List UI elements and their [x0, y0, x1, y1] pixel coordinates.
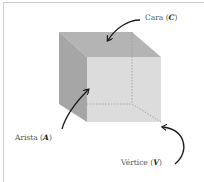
face-label-text: Cara — [145, 13, 163, 22]
vertex-label-symbol: V — [153, 158, 159, 167]
edge-label-symbol: A — [43, 133, 49, 142]
edge-label-text: Arista — [15, 133, 38, 142]
vertex-label-text: Vértice — [121, 158, 148, 167]
cube-diagram — [0, 0, 204, 182]
cube-front-face — [87, 57, 161, 122]
vertex-label: Vértice (V) — [121, 159, 162, 167]
face-label-symbol: C — [169, 13, 175, 22]
edge-label: Arista (A) — [15, 134, 52, 142]
vertex-arrow-icon — [163, 127, 184, 164]
face-label: Cara (C) — [145, 14, 178, 22]
